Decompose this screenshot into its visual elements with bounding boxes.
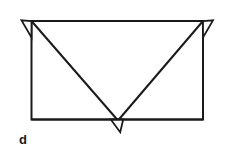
figure-label: d: [19, 133, 27, 146]
envelope-diagram: [0, 0, 225, 166]
figure-container: d: [0, 0, 225, 166]
envelope-rectangle: [32, 21, 204, 120]
